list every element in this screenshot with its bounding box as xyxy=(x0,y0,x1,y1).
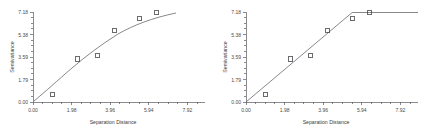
chart-right-svg: 0.00 1.79 3.59 5.38 7.18 0.00 1.98 3.96 … xyxy=(213,0,425,131)
x-tick-label: 5.94 xyxy=(357,107,367,113)
data-point-marker xyxy=(137,17,141,21)
x-tick-label: 1.98 xyxy=(280,107,290,113)
y-major-ticks-left xyxy=(30,12,33,102)
x-major-ticks-right xyxy=(246,102,400,105)
chart-panel-left: 0.00 1.79 3.59 5.38 7.18 0.00 1.98 3.96 … xyxy=(0,0,212,131)
y-tick-label: 7.18 xyxy=(18,9,28,15)
x-tick-label: 7.92 xyxy=(396,107,406,113)
x-axis-title: Separation Distance xyxy=(303,119,350,125)
x-tick-label: 3.96 xyxy=(105,107,115,113)
chart-panel-right: 0.00 1.79 3.59 5.38 7.18 0.00 1.98 3.96 … xyxy=(213,0,425,131)
data-points-left xyxy=(50,11,158,97)
data-point-marker xyxy=(263,93,267,97)
data-point-marker xyxy=(75,57,79,61)
y-tick-label: 0.00 xyxy=(231,99,241,105)
data-point-marker xyxy=(288,57,292,61)
data-point-marker xyxy=(308,53,312,57)
data-point-marker xyxy=(50,93,54,97)
chart-left-svg: 0.00 1.79 3.59 5.38 7.18 0.00 1.98 3.96 … xyxy=(0,0,212,131)
y-tick-labels-left: 0.00 1.79 3.59 5.38 7.18 xyxy=(18,9,28,105)
semivariogram-figure: 0.00 1.79 3.59 5.38 7.18 0.00 1.98 3.96 … xyxy=(0,0,425,131)
data-point-marker xyxy=(350,17,354,21)
y-axis-title: Semivariance xyxy=(222,41,228,73)
x-tick-label: 5.94 xyxy=(144,107,154,113)
y-tick-label: 3.59 xyxy=(231,54,241,60)
y-tick-label: 1.79 xyxy=(18,77,28,83)
y-tick-labels-right: 0.00 1.79 3.59 5.38 7.18 xyxy=(231,9,241,105)
x-axis-title: Separation Distance xyxy=(90,119,137,125)
data-point-marker xyxy=(112,29,116,33)
model-curve-left xyxy=(34,13,176,101)
x-tick-label: 0.00 xyxy=(241,107,251,113)
x-major-ticks-left xyxy=(33,102,187,105)
x-tick-label: 0.00 xyxy=(28,107,38,113)
x-tick-label: 1.98 xyxy=(67,107,77,113)
model-curve-right xyxy=(246,13,418,103)
y-tick-label: 7.18 xyxy=(231,9,241,15)
data-point-marker xyxy=(95,53,99,57)
x-tick-label: 3.96 xyxy=(318,107,328,113)
y-tick-label: 3.59 xyxy=(18,54,28,60)
x-tick-label: 7.92 xyxy=(183,107,193,113)
y-tick-label: 0.00 xyxy=(18,99,28,105)
data-points-right xyxy=(263,11,371,97)
y-major-ticks-right xyxy=(243,12,246,102)
y-tick-label: 5.38 xyxy=(18,32,28,38)
y-tick-label: 5.38 xyxy=(231,32,241,38)
x-tick-labels-left: 0.00 1.98 3.96 5.94 7.92 xyxy=(28,107,192,113)
data-point-marker xyxy=(155,11,159,15)
x-tick-labels-right: 0.00 1.98 3.96 5.94 7.92 xyxy=(241,107,405,113)
y-axis-title: Semivariance xyxy=(9,41,15,73)
y-tick-label: 1.79 xyxy=(231,77,241,83)
